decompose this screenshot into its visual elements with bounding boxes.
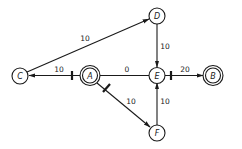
edge-e-b: 20 xyxy=(165,65,203,81)
edge-weight-f-e: 10 xyxy=(160,97,170,106)
network-diagram: 10 10 0 10 20 10 10 C A D xyxy=(0,0,242,149)
edge-a-f: 10 xyxy=(97,83,150,127)
node-f: F xyxy=(149,125,165,141)
edge-d-e: 10 xyxy=(157,24,170,67)
edge-f-e: 10 xyxy=(157,83,170,125)
node-label-a: A xyxy=(86,72,92,81)
node-label-b: B xyxy=(210,72,216,81)
node-label-d: D xyxy=(154,12,160,21)
node-a: A xyxy=(80,66,100,86)
node-label-c: C xyxy=(17,72,23,81)
edge-c-d: 10 xyxy=(27,19,149,72)
node-label-f: F xyxy=(155,129,160,138)
node-e: E xyxy=(149,68,165,84)
edge-weight-e-b: 20 xyxy=(180,65,190,74)
edge-a-c: 10 xyxy=(29,65,80,81)
edge-line-c-d xyxy=(27,19,149,72)
edge-weight-a-e: 0 xyxy=(125,65,130,74)
edge-weight-a-f: 10 xyxy=(126,97,136,106)
edge-a-e: 0 xyxy=(100,65,149,76)
node-c: C xyxy=(12,68,28,84)
node-b: B xyxy=(203,66,223,86)
edge-weight-a-c: 10 xyxy=(54,65,64,74)
edge-weight-d-e: 10 xyxy=(160,42,170,51)
node-d: D xyxy=(149,8,165,24)
edge-weight-c-d: 10 xyxy=(80,34,90,43)
